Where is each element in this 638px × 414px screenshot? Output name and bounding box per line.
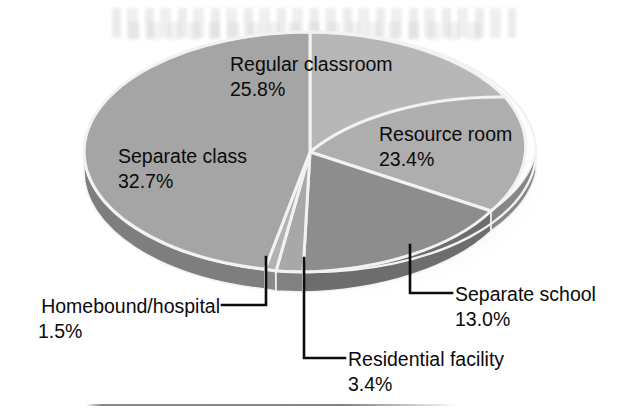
pie-chart-figure: Regular classroom 25.8% Resource room 23…: [0, 0, 638, 414]
label-separate-school-percent: 13.0%: [455, 308, 510, 330]
side-wall-residential-facility: [276, 271, 303, 292]
label-homebound-hospital-percent: 1.5%: [38, 320, 82, 342]
label-separate-class-name: Separate class: [118, 145, 247, 167]
label-residential-facility-name: Residential facility: [348, 348, 504, 370]
label-resource-room-name: Resource room: [379, 123, 512, 145]
label-regular-classroom-percent: 25.8%: [230, 78, 285, 100]
label-homebound-hospital-name: Homebound/hospital: [41, 295, 220, 317]
pie-chart-canvas: Regular classroom 25.8% Resource room 23…: [0, 0, 638, 414]
label-regular-classroom-name: Regular classroom: [230, 53, 393, 75]
label-residential-facility-percent: 3.4%: [348, 373, 392, 395]
label-separate-school-name: Separate school: [455, 283, 596, 305]
label-resource-room-percent: 23.4%: [379, 148, 434, 170]
label-separate-class-percent: 32.7%: [118, 170, 173, 192]
